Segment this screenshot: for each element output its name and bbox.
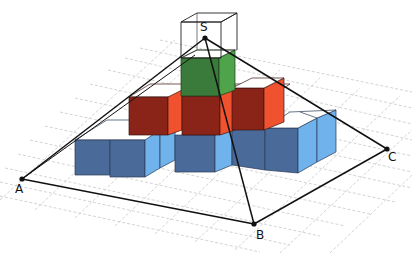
vertex-A	[19, 176, 24, 181]
vertex-label-C: C	[388, 150, 396, 164]
blue-cube-front	[265, 128, 298, 173]
blue-cube-side	[317, 110, 336, 162]
blue-cube-front	[75, 140, 110, 175]
green-layer	[181, 50, 235, 96]
blue-cube-front	[232, 127, 265, 170]
blue-cube-front	[175, 135, 215, 172]
edge-AB	[22, 179, 254, 224]
vertex-S	[202, 35, 207, 40]
red-cube-front	[232, 88, 264, 130]
vertex-label-S: S	[200, 20, 208, 34]
green-cube-front	[181, 58, 219, 96]
red-cube-front	[182, 96, 220, 135]
blue-cube-front	[110, 140, 145, 177]
pyramid-cube-diagram	[0, 0, 412, 253]
vertex-B	[251, 221, 256, 226]
vertex-label-B: B	[256, 228, 264, 242]
red-cube-front	[129, 97, 168, 135]
vertex-label-A: A	[15, 182, 23, 196]
red-cube-side	[168, 90, 182, 135]
